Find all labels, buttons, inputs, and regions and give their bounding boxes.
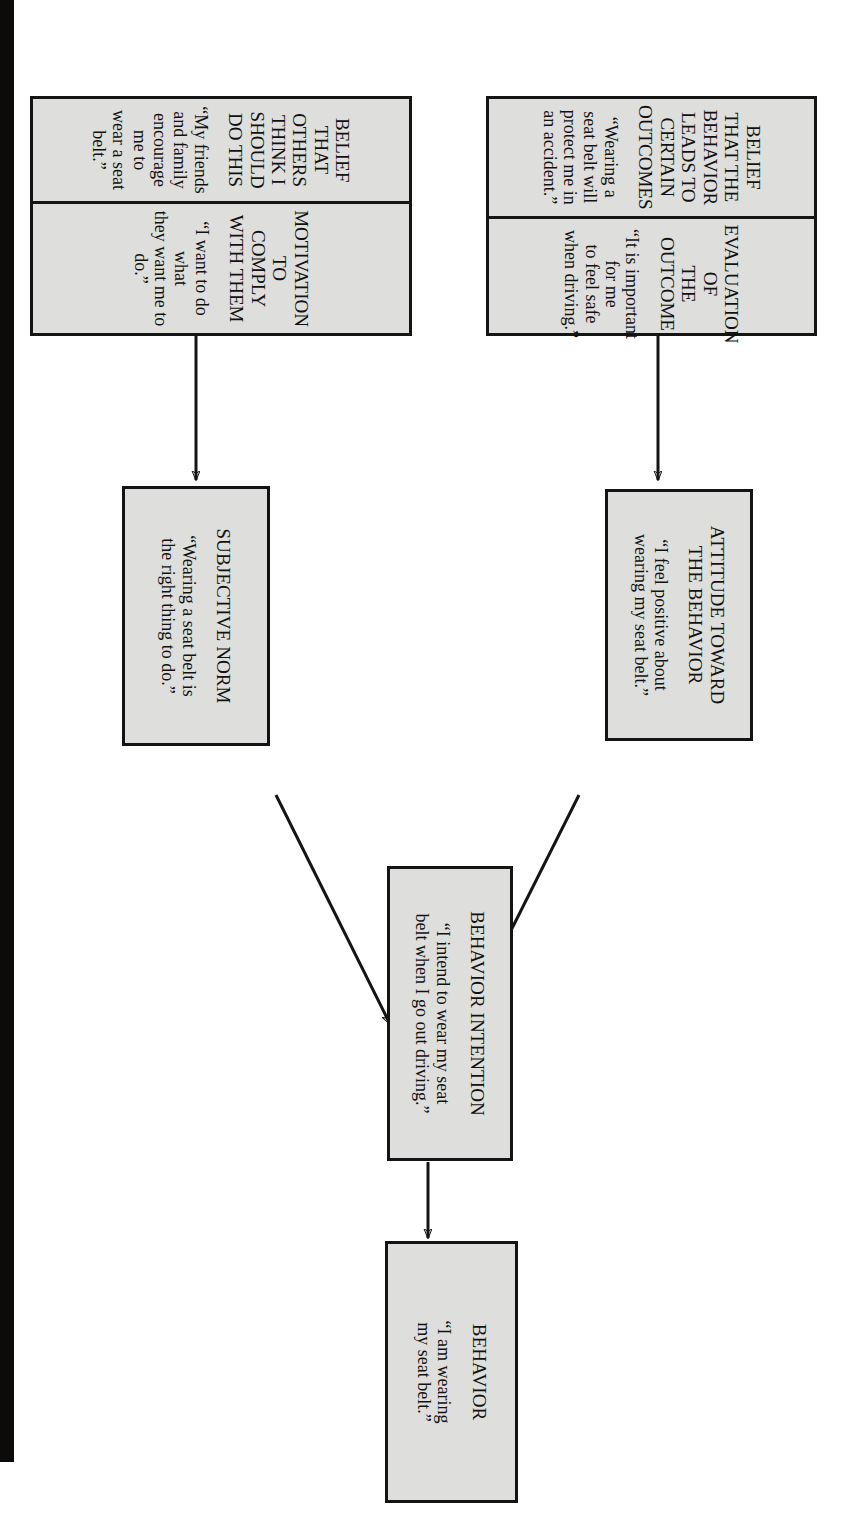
node-behavior-intention[interactable]: BEHAVIOR INTENTION “I intend to wear my … [387,866,513,1161]
node-belief-others-title: BELIEF THAT OTHERS THINK I SHOULD DO THI… [225,105,354,195]
node-attitude-title: ATTITUDE TOWARD THE BEHAVIOR [685,526,728,705]
node-motivation-to-comply[interactable]: MOTIVATION TO COMPLY WITH THEM “I want t… [33,201,409,333]
diagram-stage-wrapper: BEHAVIOR “I am wearing my seat belt.” BE… [0,0,856,1528]
group-behavioral-beliefs: BELIEF THAT THE BEHAVIOR LEADS TO CERTAI… [486,96,817,336]
connector-norm-to-intention [276,795,390,1024]
node-motivation-comply-title: MOTIVATION TO COMPLY WITH THEM [226,210,312,327]
node-behavior[interactable]: BEHAVIOR “I am wearing my seat belt.” [385,1241,518,1503]
node-behavior-quote: “I am wearing my seat belt.” [413,1321,454,1424]
node-belief-outcomes-quote: “Wearing a seat belt will protect me in … [539,105,620,210]
node-motivation-comply-quote: “I want to do what they want me to do.” [130,210,211,327]
node-behavior-intention-title: BEHAVIOR INTENTION [467,911,488,1116]
node-behavior-title: BEHAVIOR [468,1324,489,1421]
node-subjective-norm-title: SUBJECTIVE NORM [213,528,234,703]
node-belief-others-quote: “My friends and family encourage me to w… [89,105,211,195]
node-evaluation-outcome-title: EVALUATION OF THE OUTCOME [656,225,742,344]
node-evaluation-of-the-outcome[interactable]: EVALUATION OF THE OUTCOME “It is importa… [489,216,814,350]
group-normative-beliefs: BELIEF THAT OTHERS THINK I SHOULD DO THI… [30,96,412,336]
node-belief-others-think-i-should[interactable]: BELIEF THAT OTHERS THINK I SHOULD DO THI… [33,99,409,201]
node-subjective-norm-quote: “Wearing a seat belt is the right thing … [158,535,199,696]
node-attitude-toward-behavior[interactable]: ATTITUDE TOWARD THE BEHAVIOR “I feel pos… [605,489,753,741]
diagram-page: BEHAVIOR “I am wearing my seat belt.” BE… [0,0,856,1528]
node-attitude-quote: “I feel positive about wearing my seat b… [630,534,671,696]
diagram-stage: BEHAVIOR “I am wearing my seat belt.” BE… [0,0,856,1528]
node-behavior-intention-quote: “I intend to wear my seat belt when I go… [412,914,453,1114]
node-belief-behavior-leads-to-outcomes[interactable]: BELIEF THAT THE BEHAVIOR LEADS TO CERTAI… [489,99,814,216]
node-evaluation-outcome-quote: “It is important for me to feel safe whe… [561,225,642,344]
node-subjective-norm[interactable]: SUBJECTIVE NORM “Wearing a seat belt is … [122,486,270,746]
node-belief-outcomes-title: BELIEF THAT THE BEHAVIOR LEADS TO CERTAI… [635,105,764,210]
